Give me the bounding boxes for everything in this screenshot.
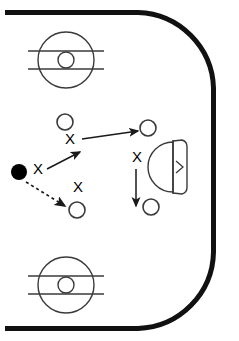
crease-semicircle (148, 142, 173, 192)
player-o-4 (143, 199, 159, 215)
goal-net (173, 140, 187, 194)
player-o-2 (140, 120, 156, 136)
goal-crease (148, 140, 187, 194)
faceoff-circle-outline (38, 32, 94, 88)
player-o-1 (57, 114, 73, 130)
hockey-rink-diagram: X X X X (0, 0, 239, 341)
faceoff-circle-top (28, 32, 104, 88)
faceoff-dot-circle (58, 52, 74, 68)
player-o-3 (69, 202, 85, 218)
defender-x-3: X (73, 178, 83, 195)
defender-x-2: X (65, 130, 75, 147)
arrow-pass-down-right-dashed (26, 182, 65, 206)
defender-x-1: X (33, 160, 43, 177)
goal-direction-icon (176, 161, 183, 173)
defender-x-4: X (132, 148, 142, 165)
faceoff-dot-circle (58, 277, 74, 293)
rink-canvas: X X X X (0, 0, 239, 341)
faceoff-circle-outline (38, 257, 94, 313)
defenders-group: X X X X (33, 130, 142, 195)
arrow-pass-horizontal (82, 131, 138, 139)
arrow-pass-up-right (47, 152, 80, 169)
faceoff-circle-bottom (28, 257, 104, 313)
puck (11, 164, 27, 180)
